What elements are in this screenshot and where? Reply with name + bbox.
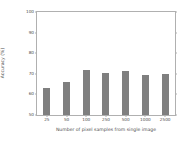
y-tick-mark-right <box>175 53 177 54</box>
x-tick-label: 1000 <box>140 118 151 122</box>
y-tick-mark-right <box>175 115 177 116</box>
bar <box>102 73 109 115</box>
y-tick-mark-right <box>175 94 177 95</box>
y-axis-title: Accuracy (%) <box>1 48 6 78</box>
x-tick-mark <box>86 115 87 117</box>
bar-chart-figure: 1009080706050 255010025050010002500 Numb… <box>0 0 184 145</box>
y-tick-mark-right <box>175 12 177 13</box>
bar <box>43 88 50 115</box>
bar <box>122 71 129 115</box>
x-tick-mark <box>145 115 146 117</box>
x-tick-mark <box>46 115 47 117</box>
plot-area: 1009080706050 255010025050010002500 <box>36 11 176 116</box>
y-tick-mark-right <box>175 73 177 74</box>
x-tick-mark <box>66 115 67 117</box>
y-tick-label: 100 <box>26 10 34 14</box>
x-tick-mark <box>106 115 107 117</box>
x-tick-mark <box>125 115 126 117</box>
y-tick-label: 90 <box>29 30 34 34</box>
x-tick-label: 250 <box>102 118 110 122</box>
x-tick-label: 50 <box>64 118 69 122</box>
bar <box>83 70 90 115</box>
bar <box>142 75 149 115</box>
y-tick-label: 70 <box>29 72 34 76</box>
y-tick-label: 50 <box>29 113 34 117</box>
bar <box>162 74 169 115</box>
x-tick-label: 25 <box>44 118 49 122</box>
x-tick-mark <box>165 115 166 117</box>
y-tick-mark-right <box>175 32 177 33</box>
x-tick-label: 2500 <box>160 118 171 122</box>
y-tick-label: 80 <box>29 51 34 55</box>
bar <box>63 82 70 115</box>
x-tick-label: 500 <box>122 118 130 122</box>
x-tick-label: 100 <box>82 118 90 122</box>
bar-series <box>37 12 175 115</box>
y-tick-label: 60 <box>29 92 34 96</box>
x-axis-title: Number of pixel samples from single imag… <box>36 128 176 133</box>
